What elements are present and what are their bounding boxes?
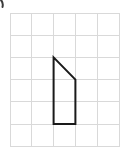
figure-container — [0, 0, 128, 157]
grid-figure-svg — [0, 0, 128, 157]
figure-background — [0, 0, 128, 157]
